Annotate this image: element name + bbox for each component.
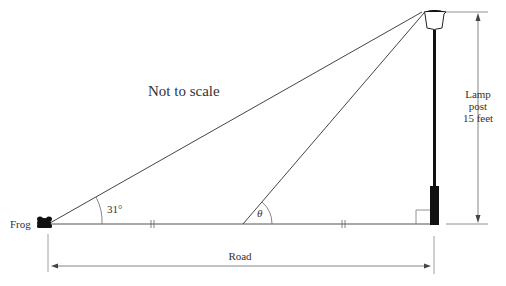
theta-to-lamp-line bbox=[243, 13, 424, 224]
trig-diagram: Not to scale Frog 31° θ Lamp post 15 fee… bbox=[0, 0, 506, 286]
frog-to-lamp-line bbox=[50, 12, 422, 223]
frog-label: Frog bbox=[10, 218, 31, 230]
lamp-base bbox=[430, 186, 439, 225]
frog-icon bbox=[37, 217, 52, 229]
angle-31-label: 31° bbox=[107, 203, 122, 215]
lamp-height-label-2: post bbox=[469, 100, 487, 112]
angle-arc-31 bbox=[96, 197, 102, 224]
lamp-height-label-3: 15 feet bbox=[463, 112, 493, 124]
angle-theta-label: θ bbox=[257, 207, 263, 219]
right-angle-marker bbox=[416, 210, 430, 224]
lamp-head-icon bbox=[424, 11, 446, 30]
road-label: Road bbox=[228, 250, 252, 262]
lamp-height-label-1: Lamp bbox=[465, 88, 491, 100]
lamp-post bbox=[424, 10, 446, 225]
road-arrow bbox=[51, 264, 431, 269]
angle-arc-theta bbox=[262, 202, 272, 224]
not-to-scale-note: Not to scale bbox=[148, 83, 220, 99]
lamp-pole bbox=[433, 30, 436, 186]
